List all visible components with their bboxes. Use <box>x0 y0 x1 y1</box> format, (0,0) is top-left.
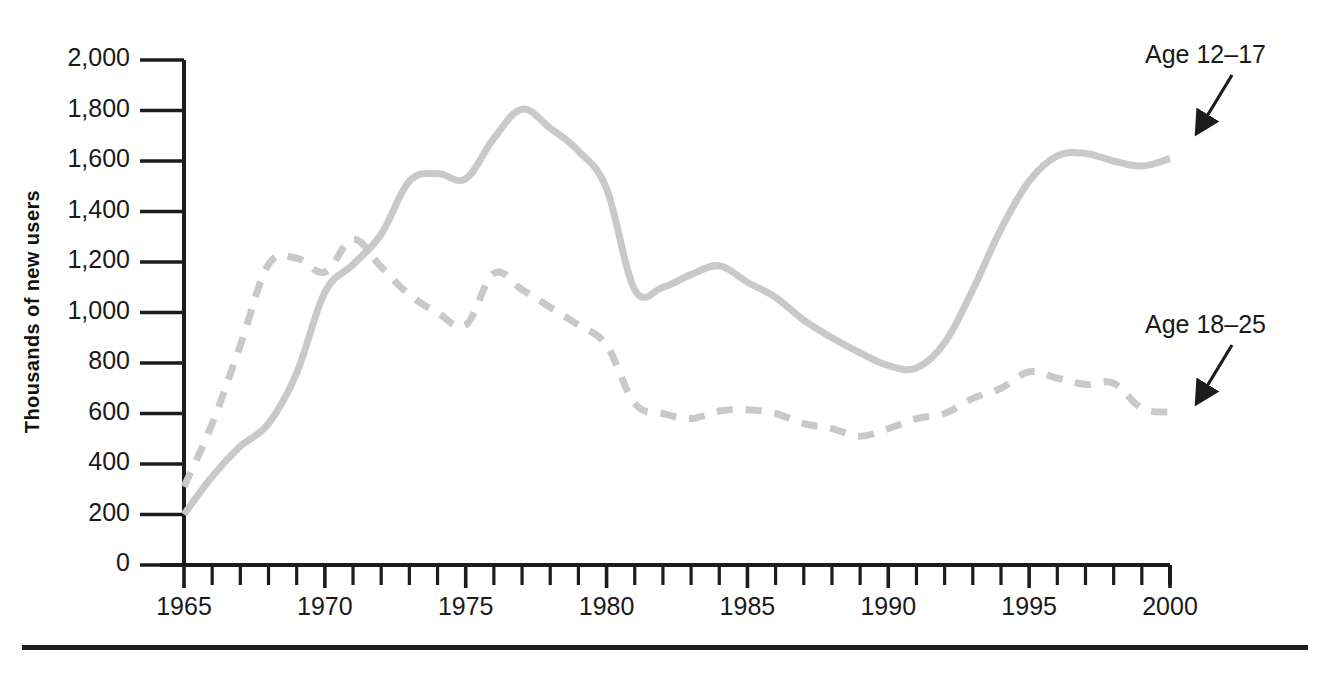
x-tick-label: 1965 <box>124 592 244 621</box>
y-tick-label: 2,000 <box>0 43 130 72</box>
y-tick-label: 800 <box>0 346 130 375</box>
y-tick-label: 1,800 <box>0 94 130 123</box>
y-tick-marks <box>140 60 184 565</box>
annotation-label-age-12-17: Age 12–17 <box>1145 40 1266 69</box>
annotation-arrows <box>1198 75 1232 401</box>
chart-figure: Thousands of new users 02004006008001,00… <box>0 0 1323 677</box>
x-tick-label: 1975 <box>406 592 526 621</box>
x-tick-label: 1980 <box>547 592 667 621</box>
y-tick-label: 600 <box>0 397 130 426</box>
footer-divider <box>22 645 1308 650</box>
arrow-age-12-17 <box>1198 75 1232 131</box>
y-tick-label: 200 <box>0 498 130 527</box>
data-series-group <box>184 109 1170 514</box>
y-tick-label: 1,000 <box>0 296 130 325</box>
x-tick-label: 1970 <box>265 592 385 621</box>
x-tick-label: 1990 <box>828 592 948 621</box>
x-tick-label: 2000 <box>1110 592 1230 621</box>
y-tick-label: 400 <box>0 447 130 476</box>
y-tick-label: 1,200 <box>0 245 130 274</box>
y-tick-label: 1,400 <box>0 195 130 224</box>
x-tick-marks <box>184 565 1170 588</box>
x-tick-label: 1995 <box>969 592 1089 621</box>
annotation-label-age-18-25: Age 18–25 <box>1145 310 1266 339</box>
y-tick-label: 0 <box>0 548 130 577</box>
series-line-age-12-17 <box>184 109 1170 514</box>
y-tick-label: 1,600 <box>0 144 130 173</box>
arrow-age-18-25 <box>1198 345 1232 401</box>
chart-canvas <box>0 0 1323 677</box>
x-tick-label: 1985 <box>687 592 807 621</box>
